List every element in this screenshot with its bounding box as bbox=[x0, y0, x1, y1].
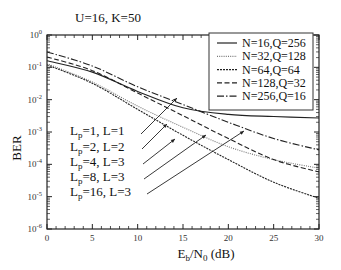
x-tick-label: 5 bbox=[90, 233, 95, 243]
chart-canvas: U=16, K=50 10010-110-210-310-410-510-6 0… bbox=[0, 0, 341, 270]
x-tick-label: 30 bbox=[315, 233, 325, 243]
ber-chart: U=16, K=50 10010-110-210-310-410-510-6 0… bbox=[0, 0, 341, 270]
x-tick-label: 0 bbox=[45, 233, 50, 243]
annotation-arrow bbox=[144, 135, 206, 179]
x-axis-label: Eb/N0 (dB) bbox=[177, 246, 234, 263]
y-axis-label: BER bbox=[9, 135, 24, 161]
y-tick-label: 10-3 bbox=[28, 125, 42, 137]
legend: N=16,Q=256N=32,Q=128N=64,Q=64N=128,Q=32N… bbox=[209, 33, 313, 110]
annotation-label: Lp=1, L=1 bbox=[70, 123, 125, 140]
legend-entry: N=256,Q=16 bbox=[242, 89, 306, 103]
chart-title: U=16, K=50 bbox=[75, 10, 141, 25]
y-tick-label: 10-6 bbox=[28, 222, 43, 234]
annotation-arrow bbox=[147, 131, 244, 194]
x-tick-label: 10 bbox=[133, 233, 143, 243]
y-tick-label: 10-5 bbox=[28, 190, 42, 202]
legend-entry: N=32,Q=128 bbox=[242, 49, 306, 63]
annotation-arrow bbox=[142, 124, 167, 149]
arrowhead-icon bbox=[240, 131, 244, 135]
legend-entry: N=16,Q=256 bbox=[242, 36, 306, 50]
x-tick-label: 15 bbox=[179, 233, 189, 243]
y-tick-label: 10-2 bbox=[28, 93, 42, 105]
x-tick-label: 25 bbox=[269, 233, 279, 243]
y-tick-label: 100 bbox=[30, 28, 42, 40]
annotation-label: Lp=16, L=3 bbox=[70, 184, 131, 201]
y-tick-label: 10-4 bbox=[28, 157, 43, 169]
legend-entry: N=128,Q=32 bbox=[242, 76, 306, 90]
x-tick-label: 20 bbox=[224, 233, 234, 243]
y-tick-label: 10-1 bbox=[28, 60, 42, 72]
legend-entry: N=64,Q=64 bbox=[242, 63, 300, 77]
